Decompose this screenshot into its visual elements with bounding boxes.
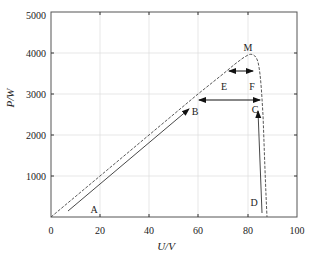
svg-text:40: 40 bbox=[144, 225, 154, 236]
svg-text:2000: 2000 bbox=[26, 130, 46, 141]
label-m: M bbox=[244, 42, 253, 53]
x-tick-labels: 0 20 40 60 80 100 bbox=[49, 225, 305, 236]
pu-curve bbox=[51, 54, 267, 217]
label-b: B bbox=[192, 106, 199, 117]
y-axis-label: P/W bbox=[4, 88, 16, 109]
svg-text:80: 80 bbox=[243, 225, 253, 236]
label-d: D bbox=[250, 197, 257, 208]
x-axis-label: U/V bbox=[157, 240, 176, 252]
svg-text:3000: 3000 bbox=[26, 89, 46, 100]
y-tick-labels: 1000 2000 3000 4000 5000 bbox=[26, 10, 46, 182]
pu-chart: 0 20 40 60 80 100 1000 2000 3000 4000 50… bbox=[0, 0, 311, 254]
label-f: F bbox=[249, 81, 255, 92]
svg-text:4000: 4000 bbox=[26, 48, 46, 59]
path-d-c-arrow bbox=[258, 111, 262, 213]
path-a-b-arrow bbox=[68, 109, 189, 211]
label-c: C bbox=[252, 104, 259, 115]
label-a: A bbox=[90, 204, 98, 215]
svg-text:100: 100 bbox=[290, 225, 305, 236]
svg-text:1000: 1000 bbox=[26, 171, 46, 182]
svg-text:60: 60 bbox=[193, 225, 203, 236]
svg-text:20: 20 bbox=[95, 225, 105, 236]
label-e: E bbox=[221, 81, 227, 92]
svg-text:5000: 5000 bbox=[26, 10, 46, 21]
svg-text:0: 0 bbox=[49, 225, 54, 236]
